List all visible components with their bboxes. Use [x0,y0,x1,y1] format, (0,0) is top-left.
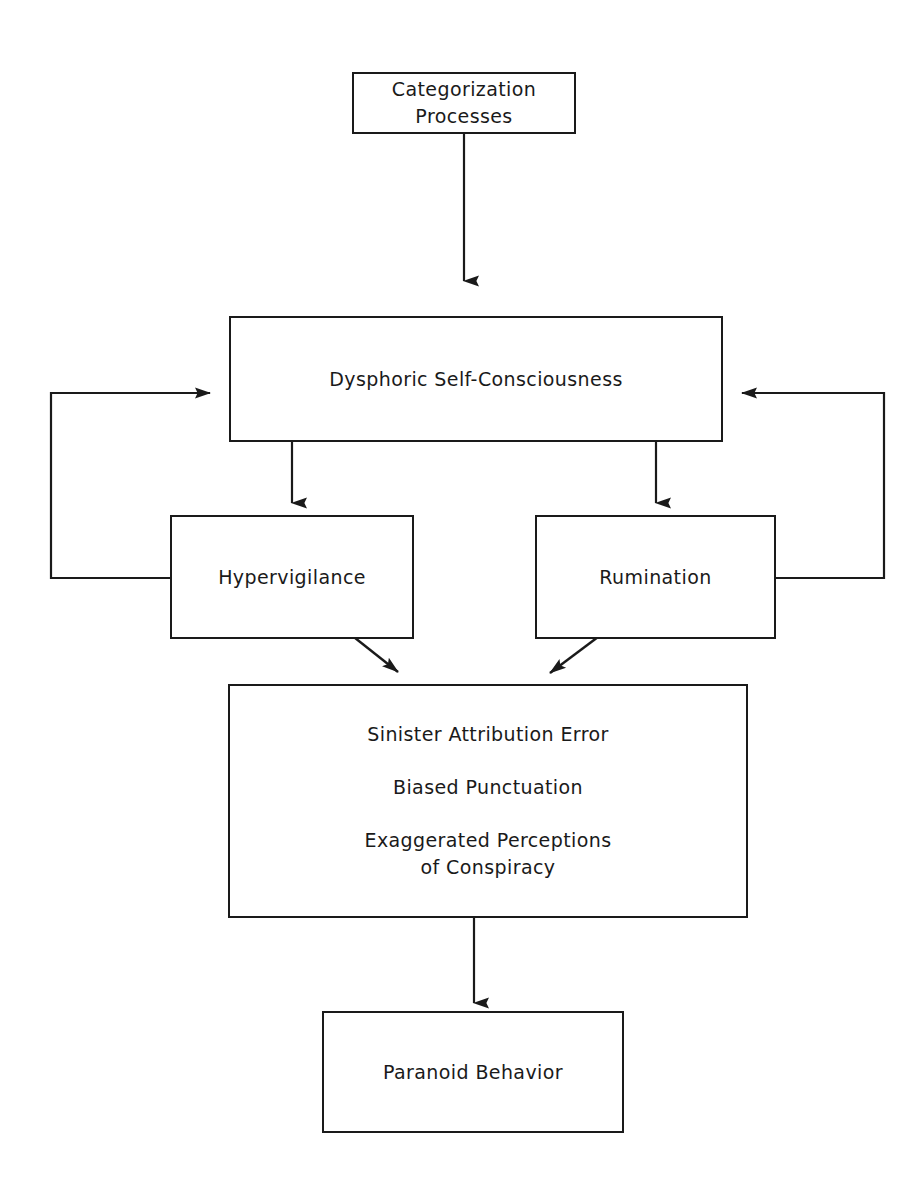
node-hypervigilance[interactable]: Hypervigilance [170,515,414,639]
edge-rumination-to-attribution [550,637,598,673]
node-rumination[interactable]: Rumination [535,515,776,639]
node-dysphoric-self-consciousness[interactable]: Dysphoric Self-Consciousness [229,316,723,442]
node-categorization-line-2: Processes [415,103,512,130]
node-hypervigilance-label: Hypervigilance [218,564,366,590]
node-attribution-line-2: Biased Punctuation [393,774,583,801]
node-paranoid-behavior[interactable]: Paranoid Behavior [322,1011,624,1133]
node-categorization-line-1: Categorization [392,76,536,103]
node-attribution-line-3: Exaggerated Perceptions [365,827,612,854]
node-paranoid-label: Paranoid Behavior [383,1059,563,1085]
node-sinister-attribution-error[interactable]: Sinister Attribution Error Biased Punctu… [228,684,748,918]
node-dysphoric-label: Dysphoric Self-Consciousness [329,366,622,392]
flowchart-canvas: Categorization Processes Dysphoric Self-… [0,0,921,1196]
node-categorization-processes[interactable]: Categorization Processes [352,72,576,134]
node-attribution-line-1: Sinister Attribution Error [367,721,608,748]
node-attribution-line-4: of Conspiracy [421,854,556,881]
node-rumination-label: Rumination [599,564,711,590]
